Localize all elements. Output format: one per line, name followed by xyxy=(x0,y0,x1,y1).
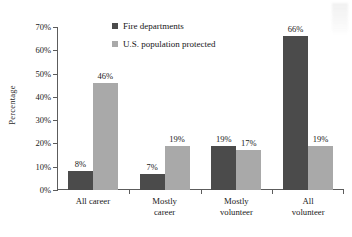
bar-group-bars: 19%17% xyxy=(211,27,261,190)
y-axis-tick-label: 10% xyxy=(35,162,51,172)
bar-value-label: 19% xyxy=(216,134,232,144)
bar[interactable]: 46% xyxy=(93,83,118,190)
y-axis-tick xyxy=(53,190,58,191)
bar-value-label: 19% xyxy=(313,134,329,144)
bar[interactable]: 17% xyxy=(236,150,261,190)
bar-value-label: 17% xyxy=(241,138,257,148)
x-axis-category-label: All career xyxy=(76,196,110,207)
bar-group-bars: 8%46% xyxy=(68,27,118,190)
x-axis-category-label: Mostly career xyxy=(147,196,183,217)
bar[interactable]: 8% xyxy=(68,171,93,190)
y-axis-title-text: Percentage xyxy=(7,85,17,124)
bar-chart: Percentage Fire departments U.S. populat… xyxy=(0,0,352,237)
y-axis-tick-label: 50% xyxy=(35,69,51,79)
x-axis-category-label: Mostly volunteer xyxy=(220,196,253,217)
bar-group: 66%19%All volunteer xyxy=(272,27,344,190)
bar-group: 7%19%Mostly career xyxy=(129,27,201,190)
bar[interactable]: 19% xyxy=(211,146,236,190)
bar-group: 8%46%All career xyxy=(57,27,129,190)
bar-group-bars: 66%19% xyxy=(283,27,333,190)
bar[interactable]: 66% xyxy=(283,36,308,190)
y-axis-title: Percentage xyxy=(4,50,20,160)
bar-value-label: 66% xyxy=(288,24,304,34)
bar-value-label: 46% xyxy=(98,71,114,81)
bar-group: 19%17%Mostly volunteer xyxy=(201,27,273,190)
bar-value-label: 19% xyxy=(169,134,185,144)
plot-area: 0%10%20%30%40%50%60%70%8%46%All career7%… xyxy=(57,27,344,190)
y-axis-tick-label: 20% xyxy=(35,138,51,148)
bar-value-label: 8% xyxy=(75,159,86,169)
y-axis-tick-label: 60% xyxy=(35,45,51,55)
y-axis-tick-label: 70% xyxy=(35,22,51,32)
bar[interactable]: 19% xyxy=(308,146,333,190)
bar-group-bars: 7%19% xyxy=(140,27,190,190)
y-axis-tick-label: 30% xyxy=(35,115,51,125)
bar[interactable]: 19% xyxy=(165,146,190,190)
x-axis-category-label: All volunteer xyxy=(290,196,326,217)
y-axis-tick-label: 0% xyxy=(40,185,51,195)
bar-value-label: 7% xyxy=(146,162,157,172)
bar[interactable]: 7% xyxy=(140,174,165,190)
y-axis-tick-label: 40% xyxy=(35,92,51,102)
